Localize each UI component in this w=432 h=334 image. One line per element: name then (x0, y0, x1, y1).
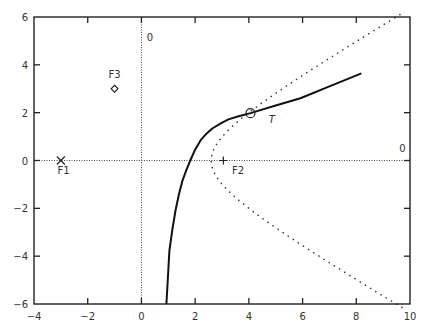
chart-markers: F1F2F3T (57, 69, 276, 176)
y-tick-label: −2 (13, 203, 28, 214)
y-tick-label: −4 (13, 251, 28, 262)
x-tick-label: 4 (246, 311, 252, 322)
x-tick-label: 10 (404, 311, 417, 322)
x-tick-label: −4 (27, 311, 42, 322)
vertical-zero-line-label: 0 (147, 32, 153, 43)
f2-plus-marker (219, 157, 227, 165)
f3-diamond-marker (111, 85, 118, 92)
horizontal-zero-line-label: 0 (399, 143, 405, 154)
y-tick-label: 2 (22, 108, 28, 119)
f1-x-marker (57, 157, 65, 165)
f1-label: F1 (57, 165, 69, 176)
x-tick-label: 2 (192, 311, 198, 322)
chart-plot: 00 F1F2F3T −4−20246810−6−4−20246 (0, 0, 432, 334)
tick-labels: −4−20246810−6−4−20246 (13, 12, 416, 322)
y-tick-label: −6 (13, 299, 28, 310)
solid-curve (166, 73, 361, 304)
x-tick-label: 8 (353, 311, 359, 322)
y-tick-label: 6 (22, 12, 28, 23)
y-tick-label: 4 (22, 60, 28, 71)
y-tick-label: 0 (22, 156, 28, 167)
f2-label: F2 (232, 165, 244, 176)
t-label: T (269, 114, 276, 125)
x-tick-label: 6 (299, 311, 305, 322)
f3-label: F3 (109, 69, 121, 80)
x-tick-label: −2 (80, 311, 95, 322)
x-tick-label: 0 (138, 311, 144, 322)
